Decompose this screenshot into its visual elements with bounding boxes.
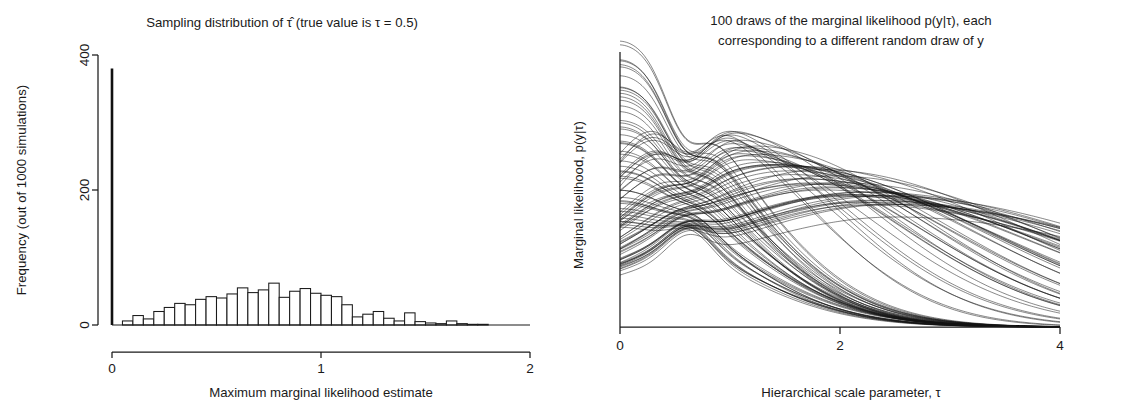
histogram-bar	[311, 293, 321, 325]
likelihood-curve	[620, 178, 1060, 326]
likelihood-curve	[620, 190, 1060, 249]
right-x-tick-label-2: 4	[1056, 338, 1064, 353]
histogram-bar	[206, 297, 216, 325]
histogram-bar	[300, 289, 310, 325]
histogram-bar	[227, 294, 237, 325]
histogram-bar	[154, 312, 164, 326]
right-chart-title-line2: corresponding to a different random draw…	[718, 33, 984, 48]
histogram-bar	[279, 297, 289, 325]
left-chart-title: Sampling distribution of τ̂ (true value …	[146, 15, 418, 30]
histogram-bar	[185, 305, 195, 325]
chart-marginal-likelihood: 100 draws of the marginal likelihood p(y…	[561, 0, 1122, 410]
chart-sampling-distribution: Sampling distribution of τ̂ (true value …	[0, 0, 561, 410]
histogram-bar	[363, 314, 373, 325]
histogram-bar	[394, 321, 404, 325]
left-x-tick-label-2: 2	[526, 361, 534, 376]
right-x-axis-label: Hierarchical scale parameter, τ	[761, 385, 941, 400]
sampling-distribution-svg: Sampling distribution of τ̂ (true value …	[0, 0, 561, 410]
left-y-tick-label-0: 0	[77, 321, 92, 329]
histogram-bar	[122, 321, 132, 325]
histogram-bar	[342, 305, 352, 325]
histogram-bar	[143, 319, 153, 325]
marginal-likelihood-svg: 100 draws of the marginal likelihood p(y…	[561, 0, 1122, 410]
histogram-bar	[269, 283, 279, 325]
right-plot-area: 024	[616, 41, 1064, 353]
histogram-bar	[352, 317, 362, 325]
right-chart-title-line1: 100 draws of the marginal likelihood p(y…	[710, 13, 991, 28]
histogram-bar	[133, 316, 143, 325]
histogram-bar	[321, 295, 331, 325]
left-y-tick-label-2: 400	[77, 43, 92, 66]
histogram-bar	[258, 290, 268, 325]
histogram-bar	[175, 303, 185, 325]
right-y-axis-label: Marginal likelihood, p(y|τ)	[571, 121, 586, 269]
histogram-bar	[248, 293, 258, 325]
left-x-axis-label: Maximum marginal likelihood estimate	[209, 385, 433, 400]
histogram-bar	[331, 297, 341, 325]
left-x-tick-label-1: 1	[317, 361, 325, 376]
right-x-tick-label-1: 2	[836, 338, 844, 353]
likelihood-curve	[620, 176, 1060, 327]
histogram-bar	[446, 321, 456, 325]
histogram-bar	[164, 307, 174, 325]
left-x-tick-label-0: 0	[108, 361, 116, 376]
left-plot-area: 0200400012	[77, 43, 534, 376]
histogram-bar	[405, 313, 415, 325]
histogram-bar	[196, 299, 206, 325]
left-y-tick-label-1: 200	[77, 178, 92, 201]
histogram-bar	[384, 318, 394, 325]
right-x-tick-label-0: 0	[616, 338, 624, 353]
histogram-bar	[237, 288, 247, 325]
figure-panel-pair: Sampling distribution of τ̂ (true value …	[0, 0, 1122, 410]
histogram-bar	[373, 312, 383, 326]
histogram-bar	[290, 291, 300, 325]
left-y-axis-label: Frequency (out of 1000 simulations)	[14, 85, 29, 295]
histogram-bar	[217, 298, 227, 325]
